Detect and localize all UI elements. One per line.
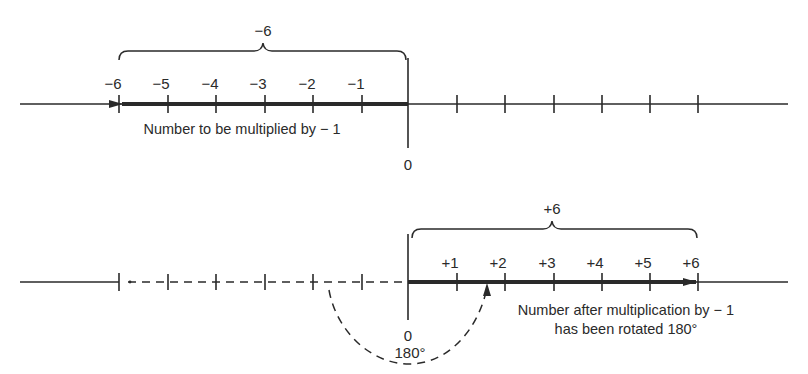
top-brace-label: −6 bbox=[254, 22, 271, 39]
bottom-caption-line1: Number after multiplication by − 1 bbox=[518, 302, 734, 318]
tick-label: −3 bbox=[249, 75, 266, 92]
top-number-line: −6 −6 −5 −4 −3 −2 −1 0 Number to be mult… bbox=[20, 22, 788, 173]
tick-label: −5 bbox=[152, 75, 169, 92]
tick-label: +2 bbox=[489, 254, 506, 271]
top-caption: Number to be multiplied by − 1 bbox=[143, 121, 340, 137]
tick-label: +3 bbox=[538, 254, 555, 271]
tick-label: −4 bbox=[201, 75, 218, 92]
tick-label: +4 bbox=[586, 254, 603, 271]
tick-label: −6 bbox=[104, 75, 121, 92]
rotation-arrowhead-icon bbox=[483, 283, 491, 296]
bottom-number-line: +6 +1 +2 +3 +4 +5 +6 0 180° Number after… bbox=[20, 200, 788, 364]
rotation-angle-label: 180° bbox=[394, 344, 425, 361]
tick-label: +1 bbox=[441, 254, 458, 271]
tick-label: +6 bbox=[682, 254, 699, 271]
tick-label: −2 bbox=[298, 75, 315, 92]
bottom-zero-label: 0 bbox=[404, 327, 412, 344]
bottom-caption-line2: has been rotated 180° bbox=[555, 321, 698, 337]
tick-label: +5 bbox=[634, 254, 651, 271]
top-brace bbox=[119, 43, 406, 60]
top-zero-label: 0 bbox=[404, 156, 412, 173]
tick-label: −1 bbox=[347, 75, 364, 92]
bottom-brace-label: +6 bbox=[543, 200, 560, 217]
diagram-canvas: −6 −6 −5 −4 −3 −2 −1 0 Number to be mult… bbox=[0, 0, 808, 374]
number-line-diagram: −6 −6 −5 −4 −3 −2 −1 0 Number to be mult… bbox=[0, 0, 808, 374]
bottom-brace bbox=[412, 221, 697, 238]
ghost-arrowhead-mark bbox=[129, 281, 132, 284]
